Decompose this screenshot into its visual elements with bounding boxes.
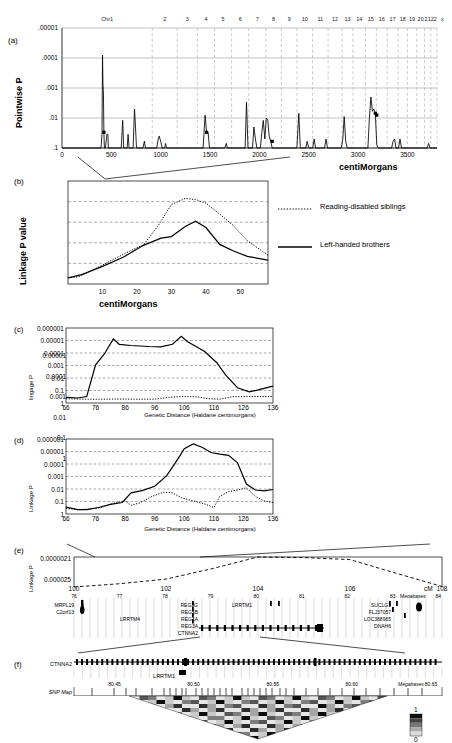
panel-d-xtick: 66	[57, 515, 75, 522]
panel-e-cm-tick: 106	[341, 585, 359, 592]
panel-c-xtick: 76	[87, 404, 105, 411]
panel-c-xtick: 136	[264, 404, 282, 411]
panel-a-tag: (a)	[8, 36, 18, 45]
panel-f-gene-ctnna2: CTNNA2	[22, 661, 72, 667]
panel-c-ytick: 0.0001	[20, 350, 64, 357]
panel-e-cm-tick: 104	[249, 585, 267, 592]
panel-e: (e) Linkage P 0.0000021 0.000025 1001021…	[0, 546, 445, 638]
panel-c-xlabel: Genetic Distance (Haldane centimorgans)	[100, 412, 300, 418]
panel-b-xtick: 50	[230, 288, 250, 295]
gene-label-dnah6: DNAH6	[335, 623, 391, 629]
panel-b: (b) Linkage P value 0.000010.00010.0010.…	[0, 175, 445, 310]
panel-e-tag: (e)	[14, 546, 24, 555]
panel-d-xtick: 136	[264, 515, 282, 522]
gene-label-mrpl19: MRPL19	[22, 602, 74, 608]
gene-label-reg1b: REG1B	[146, 609, 198, 615]
panel-c: (c) lingage P 0.0000010.000010.00010.001…	[0, 312, 445, 424]
panel-b-xtick: 30	[161, 288, 181, 295]
panel-c-ytick: 0.1	[20, 387, 64, 394]
gene-label-flj37057: FLJ37057	[335, 609, 391, 615]
panel-d-xtick: 86	[116, 515, 134, 522]
panel-e-ytick-max: 0.0000021	[26, 555, 71, 562]
panel-d-xlabel: Genetic Distance (Haldane centimorgans)	[100, 526, 300, 532]
colorbar-min-label: 0	[414, 736, 418, 743]
panel-c-ytick: 0.01	[20, 375, 64, 382]
legend-solid-swatch	[278, 244, 312, 250]
panel-a-chr-label: Chr1	[96, 16, 118, 22]
panel-b-xlabel: centiMorgans	[99, 299, 158, 309]
panel-f-snp-map-label: SNP Map	[22, 689, 72, 695]
panel-b-xtick: 20	[127, 288, 147, 295]
panel-c-ytick: 0.00001	[20, 337, 64, 344]
panel-d-xtick: 96	[146, 515, 164, 522]
gene-label-lrrtm4: LRRTM4	[88, 616, 140, 622]
legend-label-left-handed: Left-handed brothers	[320, 240, 440, 249]
panel-c-ytick: 0.001	[20, 362, 64, 369]
panel-c-xtick: 96	[146, 404, 164, 411]
panel-e-cm-tick: 102	[157, 585, 175, 592]
gene-label-lrrtm1: LRRTM1	[200, 602, 252, 608]
panel-a: (a) Pointwise P .00001.0001.001.01.1 050…	[0, 0, 445, 175]
panel-d-ytick: 0.001	[20, 473, 64, 480]
legend-label-reading-disabled: Reading-disabled siblings	[320, 202, 440, 211]
panel-e-ytick-min: 0.000025	[26, 576, 71, 583]
panel-a-chr-label: 2	[154, 16, 176, 22]
panel-d-ytick: 0.1	[20, 498, 64, 505]
panel-b-xtick: 40	[196, 288, 216, 295]
gene-label-suclg1: SUCLG1	[335, 602, 391, 608]
panel-d-ytick: 0.0001	[20, 461, 64, 468]
panel-c-xtick: 86	[116, 404, 134, 411]
panel-b-ylabel: Linkage P value	[18, 217, 28, 285]
gene-label-reg1a: REG1A	[146, 616, 198, 622]
panel-d-xtick: 76	[87, 515, 105, 522]
panel-d-xtick: 126	[234, 515, 252, 522]
colorbar-max-label: 1	[414, 706, 418, 713]
panel-f-tag: (f)	[14, 660, 22, 669]
panel-a-ytick: .01	[14, 114, 58, 121]
panel-c-xtick: 126	[234, 404, 252, 411]
panel-a-ytick: .0001	[14, 54, 58, 61]
panel-f-gene-lrrtm1: LRRTM1	[125, 673, 175, 679]
panel-a-chr-label: x	[431, 16, 452, 22]
panel-e-cm-unit: cM	[424, 585, 433, 592]
gene-label-reg3g: REG3G	[146, 602, 198, 608]
panel-c-xtick: 106	[175, 404, 193, 411]
panel-c-xtick: 116	[205, 404, 223, 411]
panel-c-xtick: 66	[57, 404, 75, 411]
panel-b-tag: (b)	[14, 177, 24, 186]
panel-d-ytick: 0.00001	[20, 448, 64, 455]
panel-d: (d) Linkage P 0.0000010.000010.00010.001…	[0, 426, 445, 541]
panel-d-ytick: 0.000001	[20, 436, 64, 443]
ld-colorbar	[410, 714, 422, 736]
panel-a-ytick: .001	[14, 84, 58, 91]
panel-b-xtick: 10	[92, 288, 112, 295]
legend-dotted-swatch	[278, 206, 312, 212]
panel-a-ytick: .1	[14, 144, 58, 151]
panel-e-cm-tick: 100	[65, 585, 83, 592]
gene-label-loc388965: LOC388965	[335, 616, 391, 622]
gene-label-reg3a: REG3A	[146, 623, 198, 629]
panel-f: (f) CTNNA2 LRRTM1 80.4580.5080.5580.6080…	[0, 652, 445, 739]
gene-label-c2orf13: C2orf13	[22, 609, 74, 615]
panel-c-ytick: 0.000001	[20, 325, 64, 332]
panel-a-ytick: .00001	[14, 24, 58, 31]
panel-d-ytick: 0.01	[20, 486, 64, 493]
panel-e-cm-tick: 108	[433, 585, 451, 592]
panel-d-xtick: 106	[175, 515, 193, 522]
panel-d-xtick: 116	[205, 515, 223, 522]
